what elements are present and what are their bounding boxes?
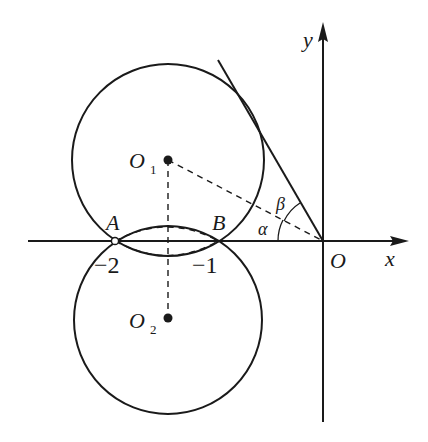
- angle-alpha-arc: [278, 220, 283, 241]
- origin-label: O: [330, 248, 346, 273]
- y-axis: [318, 22, 328, 422]
- y-axis-arrow-icon: [318, 22, 328, 42]
- point-a-label: A: [104, 210, 120, 235]
- center-o2-subscript: 2: [150, 322, 157, 337]
- angle-alpha-label: α: [258, 219, 268, 239]
- center-o1-dot: [164, 156, 173, 165]
- coordinate-diagram: y x O A B O 1 O 2 −2 −1 α β: [0, 0, 428, 442]
- x-axis-label: x: [384, 246, 395, 271]
- y-axis-label: y: [301, 27, 313, 52]
- center-o2-dot: [164, 314, 173, 323]
- center-o1-label: O: [129, 148, 145, 173]
- angle-beta-arc: [284, 203, 300, 221]
- angle-beta-label: β: [275, 194, 285, 214]
- point-b-label: B: [212, 210, 225, 235]
- center-o2-label: O: [129, 308, 145, 333]
- tick-label-minus-1: −1: [192, 252, 218, 278]
- center-o1-subscript: 1: [150, 162, 157, 177]
- point-a-marker: [111, 237, 118, 244]
- dashed-arc-upper: [115, 227, 218, 241]
- point-b-marker: [217, 240, 219, 242]
- tick-label-minus-2: −2: [94, 252, 120, 278]
